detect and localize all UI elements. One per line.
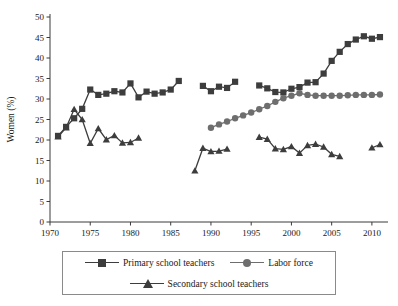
data-point-circle-marker [256, 106, 262, 112]
x-tick-label: 2005 [323, 228, 342, 238]
data-point-square-marker [353, 36, 359, 42]
data-point-square-marker [119, 89, 125, 95]
legend-swatch-circle-icon [230, 257, 264, 269]
data-point-square-marker [321, 70, 327, 76]
legend-entry-primary-school-teachers[interactable]: Primary school teachers [85, 257, 214, 269]
legend-entry-labor-force[interactable]: Labor force [230, 257, 313, 269]
data-point-square-marker [216, 84, 222, 90]
y-tick-label: 0 [40, 217, 45, 227]
data-point-square-marker [71, 115, 77, 121]
data-point-circle-marker [337, 93, 343, 99]
y-tick-label: 5 [40, 197, 45, 207]
data-point-square-marker [280, 89, 286, 95]
data-point-square-marker [103, 91, 109, 97]
data-point-square-marker [95, 92, 101, 98]
data-point-triangle-marker [87, 140, 94, 146]
data-point-square-marker [208, 88, 214, 94]
legend-triangle-marker-icon [143, 279, 153, 288]
data-point-square-marker [329, 58, 335, 64]
data-point-circle-marker [264, 103, 270, 109]
data-point-triangle-marker [256, 134, 263, 140]
data-point-triangle-marker [71, 106, 78, 112]
legend-entry-secondary-school-teachers[interactable]: Secondary school teachers [130, 278, 269, 290]
series-line-segment [211, 93, 380, 127]
y-tick-label: 10 [35, 176, 45, 186]
data-point-circle-marker [312, 93, 318, 99]
data-point-circle-marker [224, 118, 230, 124]
data-point-triangle-marker [312, 141, 319, 147]
x-tick-label: 1990 [202, 228, 221, 238]
data-point-square-marker [256, 82, 262, 88]
data-point-triangle-marker [199, 145, 206, 151]
x-tick-label: 1985 [162, 228, 181, 238]
data-point-square-marker [224, 85, 230, 91]
data-point-square-marker [79, 106, 85, 112]
data-point-square-marker [369, 36, 375, 42]
data-point-square-marker [135, 94, 141, 100]
data-point-square-marker [264, 85, 270, 91]
data-point-square-marker [168, 86, 174, 92]
data-point-triangle-marker [111, 132, 118, 138]
data-point-circle-marker [240, 112, 246, 118]
data-point-circle-marker [232, 115, 238, 121]
y-tick-label: 50 [35, 12, 45, 22]
data-point-triangle-marker [223, 145, 230, 151]
y-tick-label: 30 [35, 94, 45, 104]
legend-label-labor-force: Labor force [268, 258, 313, 268]
series-secondary-school-teachers [54, 106, 383, 174]
data-point-circle-marker [328, 93, 334, 99]
data-point-circle-marker [288, 93, 294, 99]
legend-label-primary-school-teachers: Primary school teachers [123, 258, 214, 268]
data-point-circle-marker [272, 99, 278, 105]
chart-legend: Primary school teachers Labor force Seco… [62, 251, 336, 295]
data-point-square-marker [304, 80, 310, 86]
chart-figure: 0510152025303540455019701975198019851990… [0, 0, 398, 306]
x-tick-label: 1975 [81, 228, 100, 238]
y-tick-label: 45 [35, 33, 45, 43]
data-point-square-marker [272, 89, 278, 95]
data-point-square-marker [152, 91, 158, 97]
x-tick-label: 1995 [242, 228, 261, 238]
data-point-triangle-marker [376, 141, 383, 147]
data-point-square-marker [200, 83, 206, 89]
data-point-circle-marker [369, 92, 375, 98]
series-labor-force [208, 90, 383, 131]
data-point-circle-marker [361, 92, 367, 98]
legend-swatch-square-icon [85, 257, 119, 269]
data-point-triangle-marker [135, 134, 142, 140]
data-point-circle-marker [208, 125, 214, 131]
y-tick-label: 40 [35, 53, 45, 63]
data-point-square-marker [143, 89, 149, 95]
data-point-circle-marker [216, 121, 222, 127]
y-axis-title: Women (%) [6, 97, 17, 143]
legend-square-marker-icon [98, 259, 106, 267]
series-line-segment [259, 36, 380, 92]
x-tick-label: 1980 [121, 228, 140, 238]
data-point-circle-marker [377, 91, 383, 97]
x-tick-label: 2000 [282, 228, 301, 238]
y-tick-label: 35 [35, 74, 45, 84]
data-point-square-marker [337, 49, 343, 55]
x-tick-label: 2010 [363, 228, 382, 238]
data-point-square-marker [296, 84, 302, 90]
data-point-square-marker [288, 86, 294, 92]
y-tick-label: 25 [35, 115, 45, 125]
legend-row-bottom: Secondary school teachers [63, 273, 335, 294]
data-point-square-marker [377, 34, 383, 40]
data-point-square-marker [232, 79, 238, 85]
legend-swatch-triangle-icon [130, 278, 164, 290]
data-point-triangle-marker [288, 143, 295, 149]
data-point-circle-marker [296, 90, 302, 96]
data-point-triangle-marker [95, 125, 102, 131]
data-point-circle-marker [353, 92, 359, 98]
data-point-circle-marker [320, 93, 326, 99]
legend-row-top: Primary school teachers Labor force [63, 252, 335, 273]
data-point-square-marker [361, 33, 367, 39]
data-point-square-marker [127, 80, 133, 86]
x-tick-label: 1970 [41, 228, 60, 238]
data-point-circle-marker [345, 92, 351, 98]
data-point-square-marker [111, 88, 117, 94]
data-point-square-marker [312, 79, 318, 85]
data-point-circle-marker [304, 92, 310, 98]
legend-label-secondary-school-teachers: Secondary school teachers [168, 279, 269, 289]
